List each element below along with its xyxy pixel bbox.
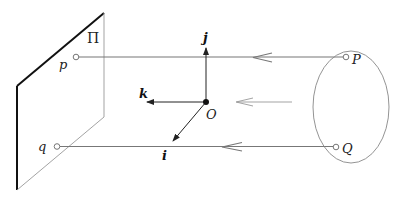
label-P: P [351,52,361,67]
axis-i [173,102,206,141]
plane-label: Π [87,30,99,46]
plane-top-edge [17,13,104,86]
label-origin: O [206,107,217,122]
point-P [343,54,349,60]
projection-ray-q [60,143,333,152]
label-j: j [200,30,208,45]
plane-bottom-edge [17,117,104,190]
origin-dot [203,99,209,105]
point-q [54,144,60,150]
label-p: p [59,57,68,72]
projection-diagram: Π p q P Q j k i O [0,0,398,201]
point-p [73,54,79,60]
label-Q: Q [342,141,353,156]
label-q: q [38,139,46,154]
label-k: k [139,86,148,101]
projection-ray-p [79,53,343,62]
point-Q [333,144,339,150]
label-i: i [162,148,167,163]
projection-direction-arrow [236,98,292,106]
camera-axes [147,48,209,141]
